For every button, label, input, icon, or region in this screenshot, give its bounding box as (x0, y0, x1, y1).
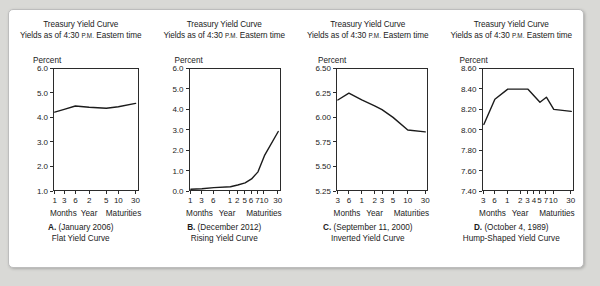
x-axis-tick-label: 30 (421, 196, 430, 205)
x-axis-group-months: Months (50, 209, 77, 218)
x-axis-tick-label: 1 (52, 196, 56, 205)
x-axis-tick-label: 3 (481, 196, 485, 205)
y-axis-tick-label: 5.0 (9, 88, 48, 97)
x-axis-tick-mark (277, 191, 278, 194)
panel-caption-letter: C. (323, 223, 331, 232)
x-axis-tick-mark (75, 191, 76, 194)
panel-c: Treasury Yield Curve Yields as of 4:30 P… (296, 10, 440, 267)
y-axis-tick-label: 8.40 (440, 84, 477, 93)
y-axis-tick-label: 8.60 (440, 64, 477, 73)
plot-area (482, 68, 574, 191)
panel-caption-title: Rising Yield Curve (153, 233, 297, 244)
panel-a-plot: 6.05.04.03.02.01.0136251030MonthsYearMat… (9, 10, 153, 267)
yield-curve-line (190, 69, 280, 190)
yield-curve-line (337, 69, 427, 190)
x-axis-group-maturities: Maturities (539, 209, 575, 218)
panel-caption-letter: D. (474, 223, 482, 232)
panel-caption-title: Flat Yield Curve (9, 233, 153, 244)
x-axis-tick-label: 6 (211, 196, 215, 205)
panel-caption: D. (October 4, 1989)Hump-Shaped Yield Cu… (440, 222, 584, 244)
y-axis-tick-label: 0.0 (153, 187, 184, 196)
x-axis-tick-label: 1 (505, 196, 509, 205)
x-axis-tick-label: 5 (242, 196, 246, 205)
x-axis-tick-label: 10 (549, 196, 558, 205)
x-axis-tick-mark (190, 191, 191, 194)
x-axis-tick-mark (213, 191, 214, 194)
x-axis-tick-mark (54, 191, 55, 194)
x-axis-tick-label: 30 (131, 196, 140, 205)
y-axis-tick-label: 1.0 (9, 187, 48, 196)
x-axis-tick-mark (263, 191, 264, 194)
panel-b-plot: 6.05.04.03.02.01.00.0136125671030MonthsY… (153, 10, 297, 267)
y-axis-tick-label: 8.20 (440, 105, 477, 114)
x-axis-tick-mark (118, 191, 119, 194)
figure-frame: Treasury Yield Curve Yields as of 4:30 P… (8, 9, 584, 268)
plot-area (189, 68, 281, 191)
panel-d: Treasury Yield Curve Yields as of 4:30 P… (440, 10, 584, 267)
panel-caption-date: (September 11, 2000) (331, 223, 412, 232)
x-axis-tick-mark (539, 191, 540, 194)
y-axis-tick-label: 6.00 (296, 113, 331, 122)
x-axis-tick-label: 10 (114, 196, 123, 205)
y-axis-tick-label: 2.0 (9, 162, 48, 171)
x-axis-group-year: Year (512, 209, 529, 218)
panel-caption-title: Hump-Shaped Yield Curve (440, 233, 584, 244)
x-axis-tick-mark (229, 191, 230, 194)
y-axis-tick-label: 6.0 (9, 64, 48, 73)
x-axis-group-year: Year (81, 209, 98, 218)
x-axis-tick-label: 3 (336, 196, 340, 205)
x-axis-tick-mark (64, 191, 65, 194)
x-axis-tick-label: 3 (199, 196, 203, 205)
x-axis-tick-mark (89, 191, 90, 194)
x-axis-group-maturities: Maturities (394, 209, 430, 218)
x-axis-tick-mark (257, 191, 258, 194)
y-axis-tick-label: 2.0 (153, 146, 184, 155)
x-axis-tick-label: 3 (62, 196, 66, 205)
plot-area (53, 68, 139, 191)
x-axis-tick-mark (106, 191, 107, 194)
x-axis-group-months: Months (334, 209, 361, 218)
x-axis-tick-mark (237, 191, 238, 194)
panel-caption-letter: A. (48, 223, 56, 232)
panel-d-plot: 8.608.408.208.007.807.607.40361234571030… (440, 10, 584, 267)
x-axis-tick-label: 2 (372, 196, 376, 205)
x-axis-tick-mark (135, 191, 136, 194)
x-axis-tick-mark (348, 191, 349, 194)
panel-c-plot: 6.506.256.005.755.505.253612351030Months… (296, 10, 440, 267)
x-axis-tick-label: 1 (188, 196, 192, 205)
y-axis-tick-label: 4.0 (153, 105, 184, 114)
x-axis-tick-mark (393, 191, 394, 194)
y-axis-tick-label: 3.0 (153, 125, 184, 134)
y-axis-tick-label: 6.0 (153, 64, 184, 73)
panel-caption-date: (October 4, 1989) (482, 223, 548, 232)
x-axis-group-maturities: Maturities (246, 209, 282, 218)
x-axis-tick-label: 2 (518, 196, 522, 205)
panel-caption-date: (January 2006) (56, 223, 113, 232)
y-axis-tick-label: 8.00 (440, 125, 477, 134)
x-axis-tick-mark (382, 191, 383, 194)
y-axis-tick-label: 6.25 (296, 88, 331, 97)
x-axis-tick-mark (201, 191, 202, 194)
yield-curve-line (483, 69, 573, 190)
x-axis-tick-label: 2 (235, 196, 239, 205)
y-axis-tick-label: 3.0 (9, 137, 48, 146)
x-axis-tick-label: 10 (403, 196, 412, 205)
y-axis-tick-label: 7.80 (440, 146, 477, 155)
y-axis-tick-label: 4.0 (9, 113, 48, 122)
x-axis-tick-mark (553, 191, 554, 194)
x-axis-tick-label: 1 (228, 196, 232, 205)
panel-caption-date: (December 2012) (195, 223, 261, 232)
panel-caption: C. (September 11, 2000)Inverted Yield Cu… (296, 222, 440, 244)
x-axis-tick-mark (374, 191, 375, 194)
y-axis-tick-label: 6.50 (296, 64, 331, 73)
x-axis-tick-mark (251, 191, 252, 194)
panel-caption-title: Inverted Yield Curve (296, 233, 440, 244)
x-axis-tick-label: 1 (360, 196, 364, 205)
x-axis-tick-label: 2 (87, 196, 91, 205)
x-axis-tick-mark (337, 191, 338, 194)
x-axis-tick-mark (545, 191, 546, 194)
y-axis-tick-label: 5.0 (153, 84, 184, 93)
x-axis-tick-label: 6 (73, 196, 77, 205)
x-axis-tick-label: 6 (492, 196, 496, 205)
x-axis-tick-label: 3 (525, 196, 529, 205)
